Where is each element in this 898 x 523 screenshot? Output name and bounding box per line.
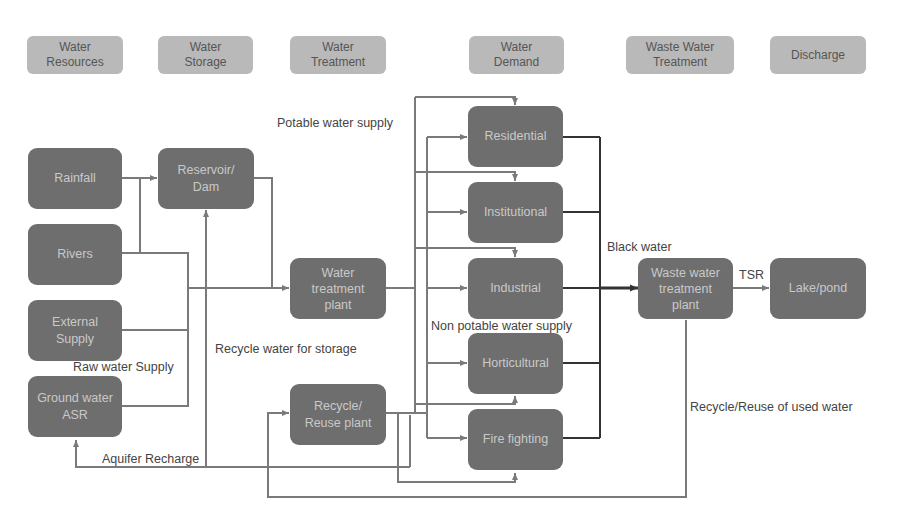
stage-header-discharge: Discharge (770, 36, 866, 74)
node-horticultural: Horticultural (468, 333, 563, 394)
stage-header-water-treatment: Water Treatment (290, 36, 386, 74)
label-black-water: Black water (607, 240, 672, 254)
label-recycle-water-for-storage: Recycle water for storage (215, 342, 357, 356)
stage-header-water-demand: Water Demand (469, 36, 564, 74)
stage-header-water-storage: Water Storage (158, 36, 253, 74)
node-lake-pond: Lake/pond (770, 258, 866, 319)
stage-header-water-resources: Water Resources (27, 36, 123, 74)
label-non-potable-water-supply: Non potable water supply (431, 319, 572, 333)
node-external-supply: External Supply (28, 300, 122, 361)
water-cycle-diagram: Water Resources Water Storage Water Trea… (0, 0, 898, 523)
node-fire-fighting: Fire fighting (468, 409, 563, 470)
node-industrial: Industrial (468, 258, 563, 319)
node-ground-water-asr: Ground water ASR (28, 376, 122, 437)
label-raw-water-supply: Raw water Supply (73, 360, 174, 374)
label-potable-water-supply: Potable water supply (277, 116, 393, 130)
node-residential: Residential (468, 106, 563, 167)
label-aquifer-recharge: Aquifer Recharge (102, 452, 199, 466)
node-institutional: Institutional (468, 182, 563, 243)
node-reservoir-dam: Reservoir/ Dam (158, 148, 254, 209)
node-rivers: Rivers (28, 224, 122, 285)
label-tsr: TSR (739, 268, 764, 282)
label-recycle-reuse-of-used-water: Recycle/Reuse of used water (690, 400, 853, 414)
connector-lines (0, 0, 898, 523)
node-water-treatment-plant: Water treatment plant (290, 258, 386, 319)
node-rainfall: Rainfall (28, 148, 122, 209)
node-waste-water-treatment-plant: Waste water treatment plant (638, 258, 733, 319)
stage-header-waste-water-treatment: Waste Water Treatment (626, 36, 734, 74)
node-recycle-reuse-plant: Recycle/ Reuse plant (290, 384, 386, 445)
